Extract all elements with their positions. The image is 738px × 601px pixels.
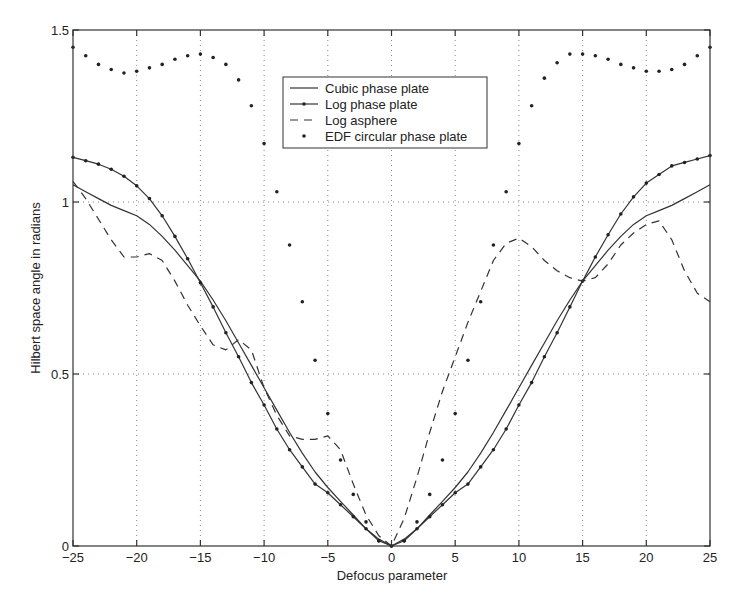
x-tick-label: 25 (703, 550, 717, 565)
data-point (97, 162, 101, 166)
data-point (517, 142, 521, 146)
data-point (288, 243, 292, 247)
data-point (695, 157, 699, 161)
data-point (632, 66, 636, 70)
x-tick-label: −15 (189, 550, 211, 565)
data-point (301, 300, 305, 304)
data-point (224, 63, 228, 67)
data-point (262, 403, 266, 407)
data-point (109, 68, 113, 72)
data-point (619, 63, 623, 67)
data-point (84, 159, 88, 163)
data-point (313, 358, 317, 362)
data-point (683, 161, 687, 165)
data-point (453, 491, 457, 495)
data-point (326, 412, 330, 416)
data-point (237, 355, 241, 359)
legend-item-edf: EDF circular phase plate (302, 129, 467, 144)
data-point (237, 78, 241, 82)
data-point (645, 69, 649, 73)
y-tick-label: 0 (62, 539, 69, 554)
y-axis-label: Hilbert space angle in radians (28, 202, 43, 374)
data-point (657, 173, 661, 177)
x-tick-label: −20 (126, 550, 148, 565)
data-point (160, 63, 164, 67)
data-point (415, 527, 419, 531)
x-tick-label: 0 (388, 550, 395, 565)
data-point (84, 54, 88, 58)
data-point (313, 482, 317, 486)
data-point (148, 197, 152, 201)
series-log-asphere (73, 181, 710, 546)
data-point (428, 493, 432, 497)
x-axis-label: Defocus parameter (337, 568, 448, 583)
data-point (645, 181, 649, 185)
data-point (632, 195, 636, 199)
y-tick-label: 1.5 (51, 23, 69, 38)
data-point (441, 503, 445, 507)
data-point (441, 458, 445, 462)
data-point (594, 54, 598, 58)
data-point (148, 66, 152, 70)
data-point (301, 465, 305, 469)
data-point (695, 54, 699, 58)
data-point (160, 214, 164, 218)
data-point (568, 52, 572, 56)
data-point (466, 482, 470, 486)
data-point (122, 174, 126, 178)
legend-marker-dot (302, 102, 306, 106)
legend-marker-dot (302, 134, 306, 138)
data-point (619, 212, 623, 216)
data-point (250, 381, 254, 385)
data-point (568, 305, 572, 309)
data-point (186, 257, 190, 261)
legend-label: Log asphere (325, 113, 397, 128)
x-tick-label: −10 (253, 550, 275, 565)
data-point (224, 331, 228, 335)
data-point (543, 355, 547, 359)
y-tick-labels: 00.511.5 (51, 23, 69, 554)
data-point (377, 539, 381, 543)
series-line (73, 181, 710, 546)
legend-label: Log phase plate (325, 97, 418, 112)
data-point (479, 465, 483, 469)
legend: Cubic phase plate Log phase plate Log as… (283, 77, 487, 148)
data-point (453, 412, 457, 416)
data-point (530, 104, 534, 108)
data-point (135, 69, 139, 73)
y-tick-label: 1 (62, 195, 69, 210)
data-point (326, 491, 330, 495)
data-point (504, 190, 508, 194)
data-point (543, 76, 547, 80)
data-point (504, 427, 508, 431)
data-point (479, 300, 483, 304)
data-point (670, 68, 674, 72)
data-point (492, 448, 496, 452)
data-point (262, 142, 266, 146)
data-point (670, 164, 674, 168)
data-point (657, 69, 661, 73)
data-point (288, 448, 292, 452)
data-point (466, 358, 470, 362)
data-point (555, 331, 559, 335)
x-tick-label: 15 (575, 550, 589, 565)
line-chart: −25−20−15−10−50510152025 00.511.5 Defocu… (0, 0, 738, 601)
data-point (351, 515, 355, 519)
data-point (364, 520, 368, 524)
legend-label: Cubic phase plate (325, 81, 429, 96)
data-point (364, 527, 368, 531)
data-point (339, 503, 343, 507)
data-point (122, 71, 126, 75)
data-point (250, 104, 254, 108)
data-point (275, 427, 279, 431)
data-point (428, 515, 432, 519)
data-point (173, 57, 177, 61)
data-point (199, 52, 203, 56)
x-tick-label: −5 (320, 550, 335, 565)
data-point (186, 54, 190, 58)
data-point (211, 56, 215, 60)
data-point (173, 235, 177, 239)
data-point (606, 233, 610, 237)
data-point (530, 381, 534, 385)
data-point (199, 281, 203, 285)
